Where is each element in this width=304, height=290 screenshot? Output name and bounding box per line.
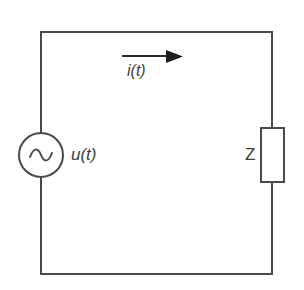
circuit-diagram: u(t) i(t) Z (0, 0, 304, 290)
voltage-source-label: u(t) (71, 146, 97, 163)
impedance-label: Z (245, 146, 255, 163)
circuit-schematic-canvas (0, 0, 304, 290)
ac-voltage-source-symbol (19, 133, 63, 177)
arrow-head (166, 50, 183, 63)
impedance-box (261, 128, 284, 182)
impedance-symbol (261, 128, 284, 182)
current-label: i(t) (127, 63, 146, 79)
